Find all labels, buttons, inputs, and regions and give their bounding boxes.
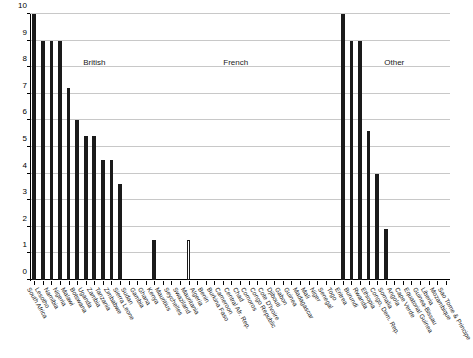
x-tick-mark	[343, 281, 344, 285]
bar	[67, 88, 71, 280]
y-tick-mark-1	[27, 252, 30, 253]
bar	[384, 229, 388, 280]
group-label-british: British	[83, 58, 105, 67]
x-tick-mark	[283, 281, 284, 285]
x-tick-mark	[77, 281, 78, 285]
bar	[152, 240, 156, 280]
x-tick-mark	[111, 281, 112, 285]
bar	[367, 131, 371, 280]
bar	[375, 174, 379, 280]
x-tick-mark	[120, 281, 121, 285]
x-tick-mark	[197, 281, 198, 285]
x-tick-mark	[60, 281, 61, 285]
x-tick-mark	[266, 281, 267, 285]
y-tick-mark-0	[27, 279, 30, 280]
x-tick-mark	[154, 281, 155, 285]
x-tick-mark	[257, 281, 258, 285]
y-tick-mark-7	[27, 93, 30, 94]
x-tick-mark	[51, 281, 52, 285]
x-tick-mark	[180, 281, 181, 285]
bar	[84, 136, 88, 280]
gridline-6	[30, 119, 450, 120]
bar	[50, 41, 54, 280]
y-tick-mark-3	[27, 199, 30, 200]
y-tick-label-8: 8	[3, 55, 27, 63]
x-tick-mark	[351, 281, 352, 285]
x-tick-mark	[437, 281, 438, 285]
bar	[341, 14, 345, 280]
group-label-other: Other	[384, 58, 404, 67]
plot-area	[30, 14, 450, 280]
x-tick-mark	[171, 281, 172, 285]
x-tick-mark	[163, 281, 164, 285]
bar	[350, 41, 354, 280]
x-tick-mark	[146, 281, 147, 285]
y-tick-mark-8	[27, 66, 30, 67]
x-tick-mark	[429, 281, 430, 285]
y-tick-label-1: 1	[3, 241, 27, 249]
x-axis-ticks	[30, 281, 450, 285]
bar	[187, 240, 191, 280]
bar	[41, 41, 45, 280]
x-tick-mark	[309, 281, 310, 285]
y-tick-label-2: 2	[3, 215, 27, 223]
y-tick-mark-4	[27, 173, 30, 174]
x-tick-mark	[231, 281, 232, 285]
x-tick-mark	[214, 281, 215, 285]
x-tick-mark	[386, 281, 387, 285]
x-tick-mark	[43, 281, 44, 285]
x-tick-mark	[377, 281, 378, 285]
x-tick-mark	[223, 281, 224, 285]
gridline-10	[30, 13, 450, 14]
x-tick-mark	[326, 281, 327, 285]
gridline-9	[30, 40, 450, 41]
x-tick-mark	[103, 281, 104, 285]
y-tick-label-0: 0	[3, 268, 27, 276]
y-axis-tick-labels: 012345678910	[0, 14, 27, 280]
x-tick-mark	[86, 281, 87, 285]
y-tick-mark-6	[27, 119, 30, 120]
x-tick-mark	[69, 281, 70, 285]
x-tick-mark	[411, 281, 412, 285]
x-tick-mark	[34, 281, 35, 285]
bar	[118, 184, 122, 280]
y-tick-label-6: 6	[3, 108, 27, 116]
x-tick-mark	[334, 281, 335, 285]
y-tick-mark-2	[27, 226, 30, 227]
group-label-french: French	[223, 58, 248, 67]
x-axis-tick-labels: South AfricaLesothoNamibiaNigeriaMalawiB…	[30, 286, 458, 358]
x-tick-mark	[300, 281, 301, 285]
x-tick-mark	[317, 281, 318, 285]
bar	[358, 41, 362, 280]
x-tick-mark	[129, 281, 130, 285]
bar	[32, 14, 36, 280]
x-tick-mark	[369, 281, 370, 285]
x-tick-mark	[420, 281, 421, 285]
bar	[101, 160, 105, 280]
x-tick-mark	[394, 281, 395, 285]
x-tick-mark	[291, 281, 292, 285]
y-tick-label-4: 4	[3, 162, 27, 170]
bar	[58, 41, 62, 280]
x-tick-mark	[403, 281, 404, 285]
y-tick-mark-5	[27, 146, 30, 147]
y-tick-label-3: 3	[3, 188, 27, 196]
x-tick-mark	[240, 281, 241, 285]
x-tick-mark	[249, 281, 250, 285]
x-tick-mark	[94, 281, 95, 285]
bar	[75, 120, 79, 280]
y-tick-mark-10	[27, 13, 30, 14]
y-tick-label-9: 9	[3, 29, 27, 37]
x-tick-mark	[274, 281, 275, 285]
y-tick-label-7: 7	[3, 82, 27, 90]
bar	[92, 136, 96, 280]
x-tick-mark	[206, 281, 207, 285]
x-tick-mark	[189, 281, 190, 285]
x-tick-mark	[137, 281, 138, 285]
bar	[110, 160, 114, 280]
y-tick-mark-9	[27, 40, 30, 41]
gridline-7	[30, 93, 450, 94]
x-tick-mark	[360, 281, 361, 285]
y-axis-line	[30, 14, 31, 281]
